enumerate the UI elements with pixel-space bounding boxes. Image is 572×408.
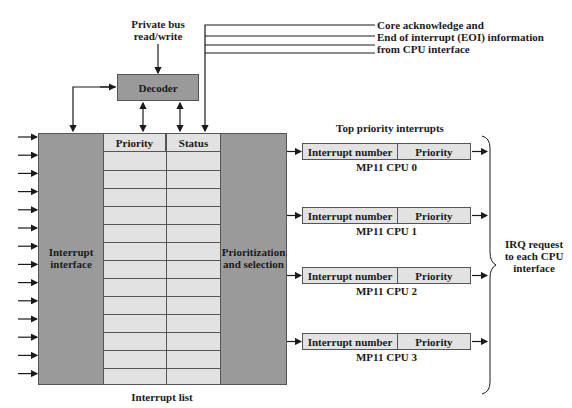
cpu-1-register: Interrupt numberPriority (302, 207, 471, 224)
column-divider (166, 134, 167, 384)
table-row-divider (104, 332, 220, 333)
priority-field: Priority (398, 268, 470, 283)
table-row-divider (104, 224, 220, 225)
table-row-divider (104, 278, 220, 279)
column-header-status: Status (166, 134, 221, 152)
interrupt-list-caption: Interrupt list (103, 391, 221, 403)
interrupt-number-field: Interrupt number (303, 208, 398, 223)
decoder-block: Decoder (117, 74, 199, 101)
cpu-2-label: MP11 CPU 2 (302, 285, 471, 297)
interrupt-interface-block: Interruptinterface (38, 133, 104, 385)
cpu-3-register: Interrupt numberPriority (302, 333, 471, 350)
interrupt-list-table: Priority Status (103, 133, 221, 385)
prioritization-label: Prioritizationand selection (221, 246, 286, 270)
table-row-divider (104, 296, 220, 297)
interrupt-number-field: Interrupt number (303, 268, 398, 283)
priority-field: Priority (398, 144, 470, 159)
table-row-divider (104, 188, 220, 189)
priority-field: Priority (398, 208, 470, 223)
feedback-label: Core acknowledge and End of interrupt (E… (377, 19, 544, 55)
table-row-divider (104, 314, 220, 315)
cpu-0-label: MP11 CPU 0 (302, 161, 471, 173)
prioritization-block: Prioritizationand selection (220, 133, 287, 385)
cpu-2-register: Interrupt numberPriority (302, 267, 471, 284)
interrupt-interface-label: Interruptinterface (39, 246, 103, 270)
cpu-0-register: Interrupt numberPriority (302, 143, 471, 160)
interrupt-number-field: Interrupt number (303, 334, 398, 349)
table-row-divider (104, 170, 220, 171)
decoder-label: Decoder (138, 82, 177, 94)
priority-field: Priority (398, 334, 470, 349)
private-bus-label: Private busread/write (118, 18, 198, 42)
interrupt-number-field: Interrupt number (303, 144, 398, 159)
top-priority-heading: Top priority interrupts (330, 122, 450, 134)
irq-request-label: IRQ requestto each CPUinterface (496, 238, 572, 274)
table-row-divider (104, 260, 220, 261)
column-header-priority: Priority (104, 134, 166, 152)
brace (482, 136, 496, 394)
table-row-divider (104, 368, 220, 369)
table-row-divider (104, 350, 220, 351)
cpu-1-label: MP11 CPU 1 (302, 225, 471, 237)
cpu-3-label: MP11 CPU 3 (302, 351, 471, 363)
table-row-divider (104, 242, 220, 243)
table-row-divider (104, 206, 220, 207)
